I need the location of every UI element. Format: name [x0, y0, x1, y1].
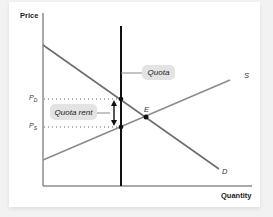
demand-label: D [222, 167, 227, 176]
equilibrium-point [144, 115, 149, 120]
ps-label: PS [29, 122, 37, 131]
pd-point [119, 97, 124, 102]
ps-point [119, 125, 124, 130]
x-axis-label: Quantity [221, 191, 251, 200]
supply-curve [43, 80, 230, 160]
supply-demand-quota-chart [0, 0, 273, 217]
supply-label: S [244, 71, 249, 80]
equilibrium-label: E [144, 105, 149, 114]
double-arrow-icon [111, 100, 117, 126]
quota-callout: Quota [142, 65, 175, 80]
pd-label: PD [29, 94, 37, 103]
y-axis-label: Price [20, 11, 38, 20]
quota-rent-callout: Quota rent [50, 104, 97, 120]
